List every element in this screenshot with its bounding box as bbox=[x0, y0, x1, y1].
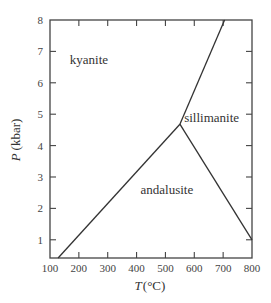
x-tick-label: 300 bbox=[99, 262, 116, 274]
andalusite-label: andalusite bbox=[141, 182, 194, 197]
x-tick-label: 100 bbox=[42, 262, 59, 274]
phase-boundary-line bbox=[180, 20, 225, 124]
phase-diagram: 10020030040050060070080012345678 kyanite… bbox=[0, 0, 271, 303]
x-tick-label: 200 bbox=[71, 262, 88, 274]
y-tick-label: 1 bbox=[38, 234, 44, 246]
x-tick-label: 400 bbox=[128, 262, 145, 274]
x-tick-label: 800 bbox=[244, 262, 261, 274]
y-tick-label: 2 bbox=[38, 202, 44, 214]
y-tick-label: 4 bbox=[38, 140, 44, 152]
x-axis-title: T(°C) bbox=[135, 278, 166, 293]
x-tick-label: 600 bbox=[186, 262, 203, 274]
y-tick-label: 8 bbox=[38, 14, 44, 26]
y-tick-label: 5 bbox=[38, 108, 44, 120]
sillimanite-label: sillimanite bbox=[184, 110, 239, 125]
kyanite-label: kyanite bbox=[70, 52, 108, 67]
y-tick-label: 7 bbox=[38, 45, 44, 57]
x-tick-label: 500 bbox=[157, 262, 174, 274]
y-tick-label: 3 bbox=[38, 171, 44, 183]
x-tick-label: 700 bbox=[215, 262, 232, 274]
y-axis-title: P(kbar) bbox=[8, 119, 23, 163]
region-labels: kyanite sillimanite andalusite bbox=[70, 52, 239, 197]
y-tick-label: 6 bbox=[38, 77, 44, 89]
